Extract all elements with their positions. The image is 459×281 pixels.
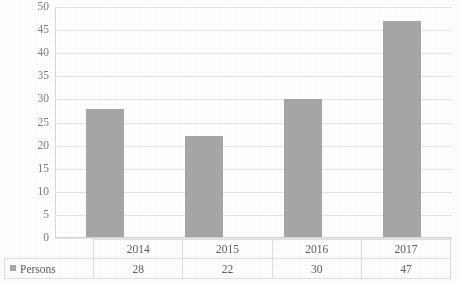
x-axis-baseline	[55, 237, 452, 238]
y-axis-tick-label: 5	[19, 209, 49, 221]
bar	[284, 99, 322, 238]
y-axis-tick-label: 45	[19, 24, 49, 36]
bar-column	[154, 7, 253, 238]
table-header-cell: 2015	[183, 240, 272, 259]
y-axis-tick-label: 50	[19, 1, 49, 13]
table-value-cell: 30	[272, 259, 361, 279]
y-axis-tick-label: 30	[19, 93, 49, 105]
bar-column	[353, 7, 452, 238]
y-axis-tick-label: 35	[19, 70, 49, 82]
y-axis-tick-label: 20	[19, 140, 49, 152]
bar	[185, 136, 223, 238]
table-header-cell: 2017	[361, 240, 450, 259]
table-header-corner	[5, 240, 94, 259]
table-header-cell: 2016	[272, 240, 361, 259]
bar-column	[55, 7, 154, 238]
bar-chart: 50454035302520151050 2014 2015 2016 2017…	[0, 0, 459, 281]
square-marker-icon	[10, 265, 16, 271]
y-axis-tick-label: 15	[19, 163, 49, 175]
y-axis-tick-label: 10	[19, 186, 49, 198]
legend-entry-persons: Persons	[5, 259, 94, 279]
data-table: 2014 2015 2016 2017 Persons 28 22 30 47	[4, 239, 451, 279]
bar	[86, 109, 124, 238]
table-header-row: 2014 2015 2016 2017	[5, 240, 451, 259]
y-axis-tick-label: 40	[19, 47, 49, 59]
bar	[383, 21, 421, 238]
table-value-cell: 22	[183, 259, 272, 279]
table-value-cell: 28	[94, 259, 183, 279]
y-axis-tick-label: 25	[19, 117, 49, 129]
legend-label: Persons	[20, 263, 56, 275]
table-row: Persons 28 22 30 47	[5, 259, 451, 279]
chart-title-remnant	[0, 0, 459, 2]
table-value-cell: 47	[361, 259, 450, 279]
plot-area	[55, 7, 452, 238]
bar-column	[254, 7, 353, 238]
table-header-cell: 2014	[94, 240, 183, 259]
